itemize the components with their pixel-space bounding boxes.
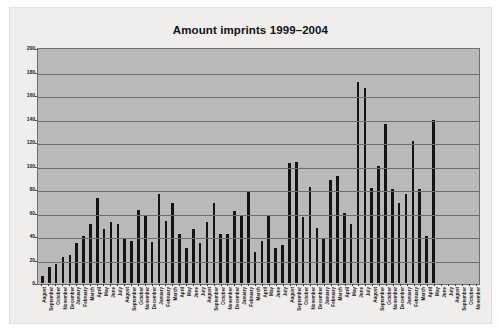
x-label-slot: January [155,286,162,330]
x-tick-mark [379,284,380,286]
gridline [38,121,479,122]
x-label-slot: December [314,286,321,330]
x-label-slot: September [128,286,135,330]
bar [110,222,113,283]
x-label-slot: March [169,286,176,330]
x-tick-mark [214,284,215,286]
x-tick-mark [455,284,456,286]
x-tick-mark [193,284,194,286]
x-label-slot: December [396,286,403,330]
x-axis-labels: AugustSeptemberOctoberNovemberDecemberJa… [38,286,479,330]
x-tick-mark [283,284,284,286]
x-tick-mark [296,284,297,286]
x-tick-mark [269,284,270,286]
bar-slot [416,50,423,283]
x-label-slot: January [403,286,410,330]
x-label-slot: August [121,286,128,330]
x-label-slot: August [369,286,376,330]
bar-slot [39,50,46,283]
x-label-slot: June [272,286,279,330]
bar-slot [87,50,94,283]
x-label-slot: July [362,286,369,330]
x-tick-mark [400,284,401,286]
bar [254,252,257,283]
x-tick-mark [352,284,353,286]
x-label-slot: November [59,286,66,330]
bar-slot [73,50,80,283]
y-tick-label: 80 [11,187,35,192]
bar-slot [169,50,176,283]
x-label-slot: November [389,286,396,330]
x-label-slot: May [183,286,190,330]
bar-slot [183,50,190,283]
x-tick-mark [234,284,235,286]
y-tick-label: 60 [11,211,35,216]
bar [96,198,99,283]
bar-slot [348,50,355,283]
x-label-slot: December [231,286,238,330]
bar-slot [396,50,403,283]
gridline [38,168,479,169]
bar [288,163,291,283]
y-tick-label: 20 [11,258,35,263]
bar [233,211,236,283]
x-label-slot: December [66,286,73,330]
x-label-slot: December [148,286,155,330]
bar-slot [176,50,183,283]
bar-slot [217,50,224,283]
bar-slot [320,50,327,283]
x-label-slot: March [334,286,341,330]
bar [267,216,270,283]
x-label-slot: February [79,286,86,330]
x-tick-mark [310,284,311,286]
x-label-slot: November [141,286,148,330]
x-tick-mark [200,284,201,286]
x-tick-mark [441,284,442,286]
bar-slot [252,50,259,283]
bar [117,224,120,283]
x-label-slot: August [286,286,293,330]
x-label-slot: May [348,286,355,330]
bar [391,189,394,283]
x-tick-mark [62,284,63,286]
bar [82,236,85,283]
x-label-slot: July [279,286,286,330]
bar-slot [162,50,169,283]
x-tick-mark [41,284,42,286]
bar-slot [128,50,135,283]
bar [357,82,360,283]
bar-slot [94,50,101,283]
bar-slot [272,50,279,283]
bar-slot [142,50,149,283]
x-label-slot: June [355,286,362,330]
x-tick-mark [69,284,70,286]
x-tick-mark [317,284,318,286]
x-tick-mark [124,284,125,286]
x-label-slot: October [300,286,307,330]
bar [384,124,387,283]
bar-slot [300,50,307,283]
y-tick-label: 180 [11,70,35,75]
bar-slot [245,50,252,283]
bar-slot [464,50,471,283]
y-tick-label: 0 [11,281,35,286]
bar [364,88,367,283]
bar [75,243,78,283]
bar [281,245,284,283]
x-label-slot: April [93,286,100,330]
bar-slot [204,50,211,283]
bar [137,210,140,283]
x-tick-mark [345,284,346,286]
bar-slot [471,50,478,283]
gridline [38,191,479,192]
bar-slot [60,50,67,283]
bar [329,180,332,283]
x-label-slot: March [86,286,93,330]
bar-slot [389,50,396,283]
bar [144,215,147,283]
x-tick-mark [393,284,394,286]
bar-slot [121,50,128,283]
x-label-slot: April [424,286,431,330]
x-label-slot: September [458,286,465,330]
x-tick-mark [227,284,228,286]
